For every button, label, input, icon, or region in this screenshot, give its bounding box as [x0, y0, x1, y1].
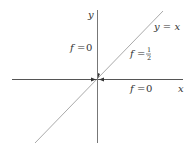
- region-label-lower-right: f = 0: [129, 83, 152, 94]
- svg-text:f: f: [69, 42, 76, 53]
- svg-text:0: 0: [86, 42, 92, 53]
- diagonal-line: [35, 11, 163, 143]
- diagram-canvas: y x y = x f = 0 f = 1 2 f = 0: [0, 0, 196, 152]
- svg-text:f: f: [129, 83, 136, 94]
- svg-text:=: =: [137, 83, 145, 94]
- region-label-upper-left: f = 0: [69, 42, 92, 53]
- y-axis-label: y: [87, 9, 94, 20]
- svg-text:=: =: [77, 42, 85, 53]
- svg-text:0: 0: [146, 83, 152, 94]
- svg-text:=: =: [137, 48, 145, 59]
- diagonal-label: y = x: [153, 21, 180, 32]
- x-axis-label: x: [178, 83, 184, 94]
- svg-text:1: 1: [147, 46, 151, 54]
- region-label-diagonal: f = 1 2: [129, 46, 151, 62]
- svg-text:2: 2: [147, 54, 151, 62]
- svg-text:f: f: [129, 48, 136, 59]
